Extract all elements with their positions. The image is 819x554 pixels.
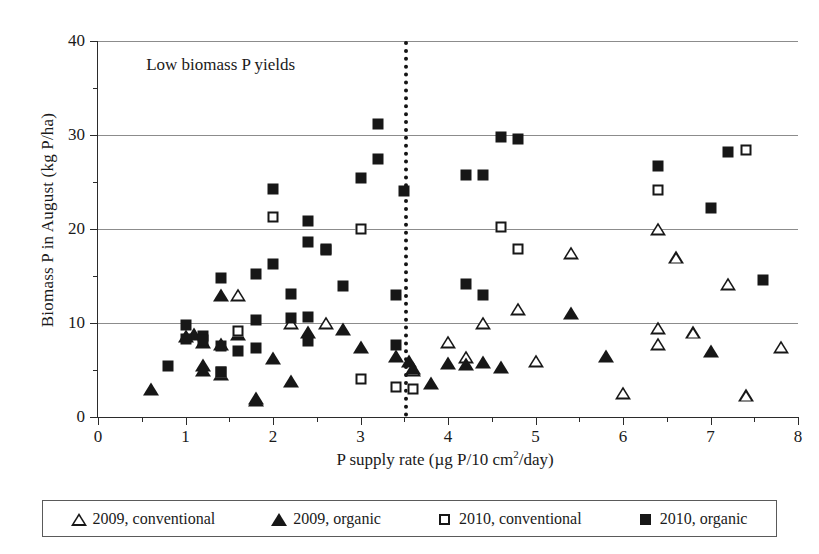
- triangle-filled-icon: [272, 512, 286, 526]
- x-tick-minor: [317, 417, 318, 422]
- y-tick-10: [90, 323, 98, 324]
- data-point: [495, 131, 506, 142]
- data-point: [513, 243, 524, 254]
- data-point: [390, 381, 401, 392]
- square-filled-icon: [639, 512, 653, 526]
- gridline-y-30: [98, 135, 798, 136]
- x-tick-minor: [667, 417, 668, 422]
- data-point: [758, 274, 769, 285]
- data-point: [705, 203, 716, 214]
- data-point: [215, 340, 226, 351]
- data-point: [563, 246, 579, 259]
- data-point: [250, 343, 261, 354]
- data-point: [320, 244, 331, 255]
- triangle-filled-icon-glyph: [271, 513, 287, 526]
- x-tick-minor: [492, 417, 493, 422]
- x-tick-minor: [579, 417, 580, 422]
- x-tick-label-8: 8: [794, 427, 803, 447]
- x-tick-5: [536, 417, 537, 425]
- data-point: [230, 288, 246, 301]
- x-tick-label-5: 5: [531, 427, 540, 447]
- data-point: [215, 272, 226, 283]
- data-point: [268, 211, 279, 222]
- x-tick-label-3: 3: [356, 427, 365, 447]
- x-tick-4: [448, 417, 449, 425]
- data-point: [163, 361, 174, 372]
- data-point: [650, 337, 666, 350]
- data-point: [408, 383, 419, 394]
- data-point: [388, 349, 404, 362]
- data-point: [478, 170, 489, 181]
- legend-entry-2[interactable]: 2010, conventional: [438, 510, 582, 528]
- data-point: [668, 251, 684, 264]
- data-point: [178, 330, 194, 343]
- data-point: [373, 118, 384, 129]
- data-point: [285, 288, 296, 299]
- data-point: [478, 289, 489, 300]
- x-tick-label-6: 6: [619, 427, 628, 447]
- data-point: [740, 145, 751, 156]
- x-tick-minor: [404, 417, 405, 422]
- y-tick-30: [90, 135, 98, 136]
- legend-label: 2010, conventional: [459, 510, 582, 528]
- x-tick-label-0: 0: [94, 427, 103, 447]
- data-point: [475, 356, 491, 369]
- data-point: [268, 258, 279, 269]
- scatter-plot-figure: Biomass P in August (kg P/ha) 010203040 …: [0, 0, 819, 554]
- data-point: [143, 382, 159, 395]
- x-tick-0: [98, 417, 99, 425]
- data-point: [685, 326, 701, 339]
- data-point: [248, 392, 264, 405]
- x-tick-2: [273, 417, 274, 425]
- y-tick-label-30: 30: [68, 125, 85, 145]
- x-tick-6: [623, 417, 624, 425]
- x-tick-8: [798, 417, 799, 425]
- data-point: [180, 319, 191, 330]
- data-point: [180, 333, 191, 344]
- data-point: [773, 340, 789, 353]
- gridline-y-20: [98, 229, 798, 230]
- data-point: [563, 306, 579, 319]
- data-point: [283, 375, 299, 388]
- data-point: [355, 374, 366, 385]
- data-point: [215, 366, 226, 377]
- y-tick-label-20: 20: [68, 219, 85, 239]
- data-point: [195, 335, 211, 348]
- data-point: [198, 334, 209, 345]
- y-tick-40: [90, 41, 98, 42]
- legend-label: 2009, conventional: [93, 510, 216, 528]
- plot-annotation: Low biomass P yields: [146, 55, 295, 75]
- data-point: [401, 354, 417, 367]
- data-point: [458, 358, 474, 371]
- data-point: [390, 339, 401, 350]
- data-point: [195, 364, 211, 377]
- legend-label: 2010, organic: [660, 510, 748, 528]
- x-tick-label-2: 2: [269, 427, 278, 447]
- legend-entry-1[interactable]: 2009, organic: [272, 510, 381, 528]
- data-point: [355, 173, 366, 184]
- reference-line-vertical: [404, 41, 408, 417]
- data-point: [215, 366, 226, 377]
- y-axis-title: Biomass P in August (kg P/ha): [38, 20, 58, 420]
- y-tick-minor-35: [93, 88, 98, 89]
- plot-area: 010203040 012345678 Low biomass P yields: [97, 41, 798, 418]
- square-open-icon: [438, 512, 452, 526]
- data-point: [320, 243, 331, 254]
- data-point: [703, 345, 719, 358]
- data-point: [738, 389, 754, 402]
- data-point: [198, 331, 209, 342]
- legend: 2009, conventional2009, organic2010, con…: [42, 500, 777, 537]
- data-point: [723, 146, 734, 157]
- data-point: [460, 170, 471, 181]
- data-point: [440, 357, 456, 370]
- data-point: [510, 302, 526, 315]
- x-tick-label-4: 4: [444, 427, 453, 447]
- y-tick-minor-25: [93, 182, 98, 183]
- legend-entry-3[interactable]: 2010, organic: [639, 510, 748, 528]
- data-point: [390, 289, 401, 300]
- data-point: [335, 322, 351, 335]
- legend-entry-0[interactable]: 2009, conventional: [72, 510, 216, 528]
- data-point: [653, 161, 664, 172]
- x-tick-label-7: 7: [706, 427, 715, 447]
- data-point: [303, 335, 314, 346]
